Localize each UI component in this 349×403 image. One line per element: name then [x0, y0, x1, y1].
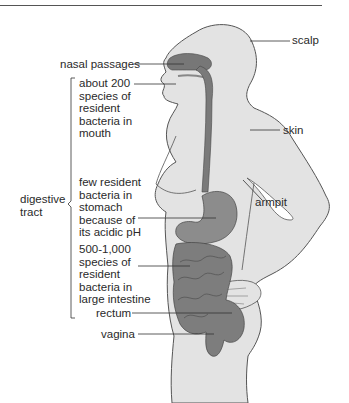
label-scalp: scalp	[292, 34, 319, 47]
label-stomach: few resident bacteria in stomach because…	[79, 176, 141, 239]
label-armpit: armpit	[255, 196, 287, 209]
label-rectum: rectum	[96, 307, 131, 320]
body-silhouette	[155, 25, 329, 403]
label-vagina: vagina	[101, 328, 135, 341]
label-skin: skin	[283, 124, 303, 137]
label-digestive-tract: digestive tract	[20, 193, 65, 218]
label-nasal-passages: nasal passages	[60, 58, 140, 71]
label-mouth: about 200 species of resident bacteria i…	[79, 77, 132, 140]
label-large-intestine: 500-1,000 species of resident bacteria i…	[79, 243, 151, 306]
